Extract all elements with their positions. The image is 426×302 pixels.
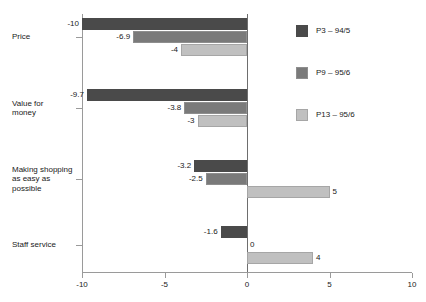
bar	[133, 31, 247, 43]
bar-value-label: -3	[154, 115, 195, 127]
legend-swatch-icon	[296, 25, 308, 37]
bar-value-label: -2.5	[162, 173, 203, 185]
x-axis-tick	[82, 273, 83, 278]
category-label-line: possible	[12, 184, 82, 194]
bar	[184, 102, 247, 114]
plot-area: -10-6.9-4-9.7-3.8-3-3.2-2.55-1.604 -10-5…	[82, 14, 412, 272]
category-label-line: Price	[12, 32, 82, 42]
legend-swatch-icon	[296, 67, 308, 79]
x-axis-tick-label: -10	[62, 280, 102, 289]
axis-zero-line	[247, 14, 248, 272]
bar-value-label: -10	[38, 18, 79, 30]
category-label-line: Staff service	[12, 240, 82, 250]
category-label: Making shoppingas easy aspossible	[12, 165, 82, 194]
x-axis-tick-label: 10	[392, 280, 426, 289]
category-label-line: Value for	[12, 99, 82, 109]
bar-value-label: -3.2	[150, 160, 191, 172]
category-label: Price	[12, 32, 82, 42]
bar	[87, 89, 247, 101]
bar-value-label: -3.8	[140, 102, 181, 114]
bar	[247, 186, 330, 198]
category-label-line: as easy as	[12, 174, 82, 184]
x-axis-tick	[330, 273, 331, 278]
bar	[247, 252, 313, 264]
legend-swatch-icon	[296, 109, 308, 121]
bar	[82, 18, 247, 30]
x-axis-tick	[165, 273, 166, 278]
bar-value-label: -1.6	[177, 226, 218, 238]
category-label-line: Making shopping	[12, 165, 82, 175]
legend-label: P13 – 95/6	[316, 108, 355, 122]
bar	[194, 160, 247, 172]
bar-value-label: 0	[250, 239, 291, 251]
bar-chart: -10-6.9-4-9.7-3.8-3-3.2-2.55-1.604 -10-5…	[0, 0, 426, 302]
x-axis-tick	[412, 273, 413, 278]
x-axis-tick	[247, 273, 248, 278]
x-axis-tick-label: -5	[145, 280, 185, 289]
category-label: Staff service	[12, 240, 82, 250]
bar	[206, 173, 247, 185]
legend-label: P9 – 95/6	[316, 66, 350, 80]
bar	[181, 44, 247, 56]
bar-value-label: -4	[137, 44, 178, 56]
bar-value-label: -6.9	[89, 31, 130, 43]
category-label: Value formoney	[12, 99, 82, 118]
axis-left-spine	[82, 14, 83, 272]
category-label-line: money	[12, 108, 82, 118]
bar-value-label: 5	[333, 186, 374, 198]
x-axis-tick-label: 0	[227, 280, 267, 289]
legend-label: P3 – 94/5	[316, 24, 350, 38]
x-axis-tick-label: 5	[310, 280, 350, 289]
bar	[198, 115, 248, 127]
bar-value-label: 4	[316, 252, 357, 264]
bar	[221, 226, 247, 238]
